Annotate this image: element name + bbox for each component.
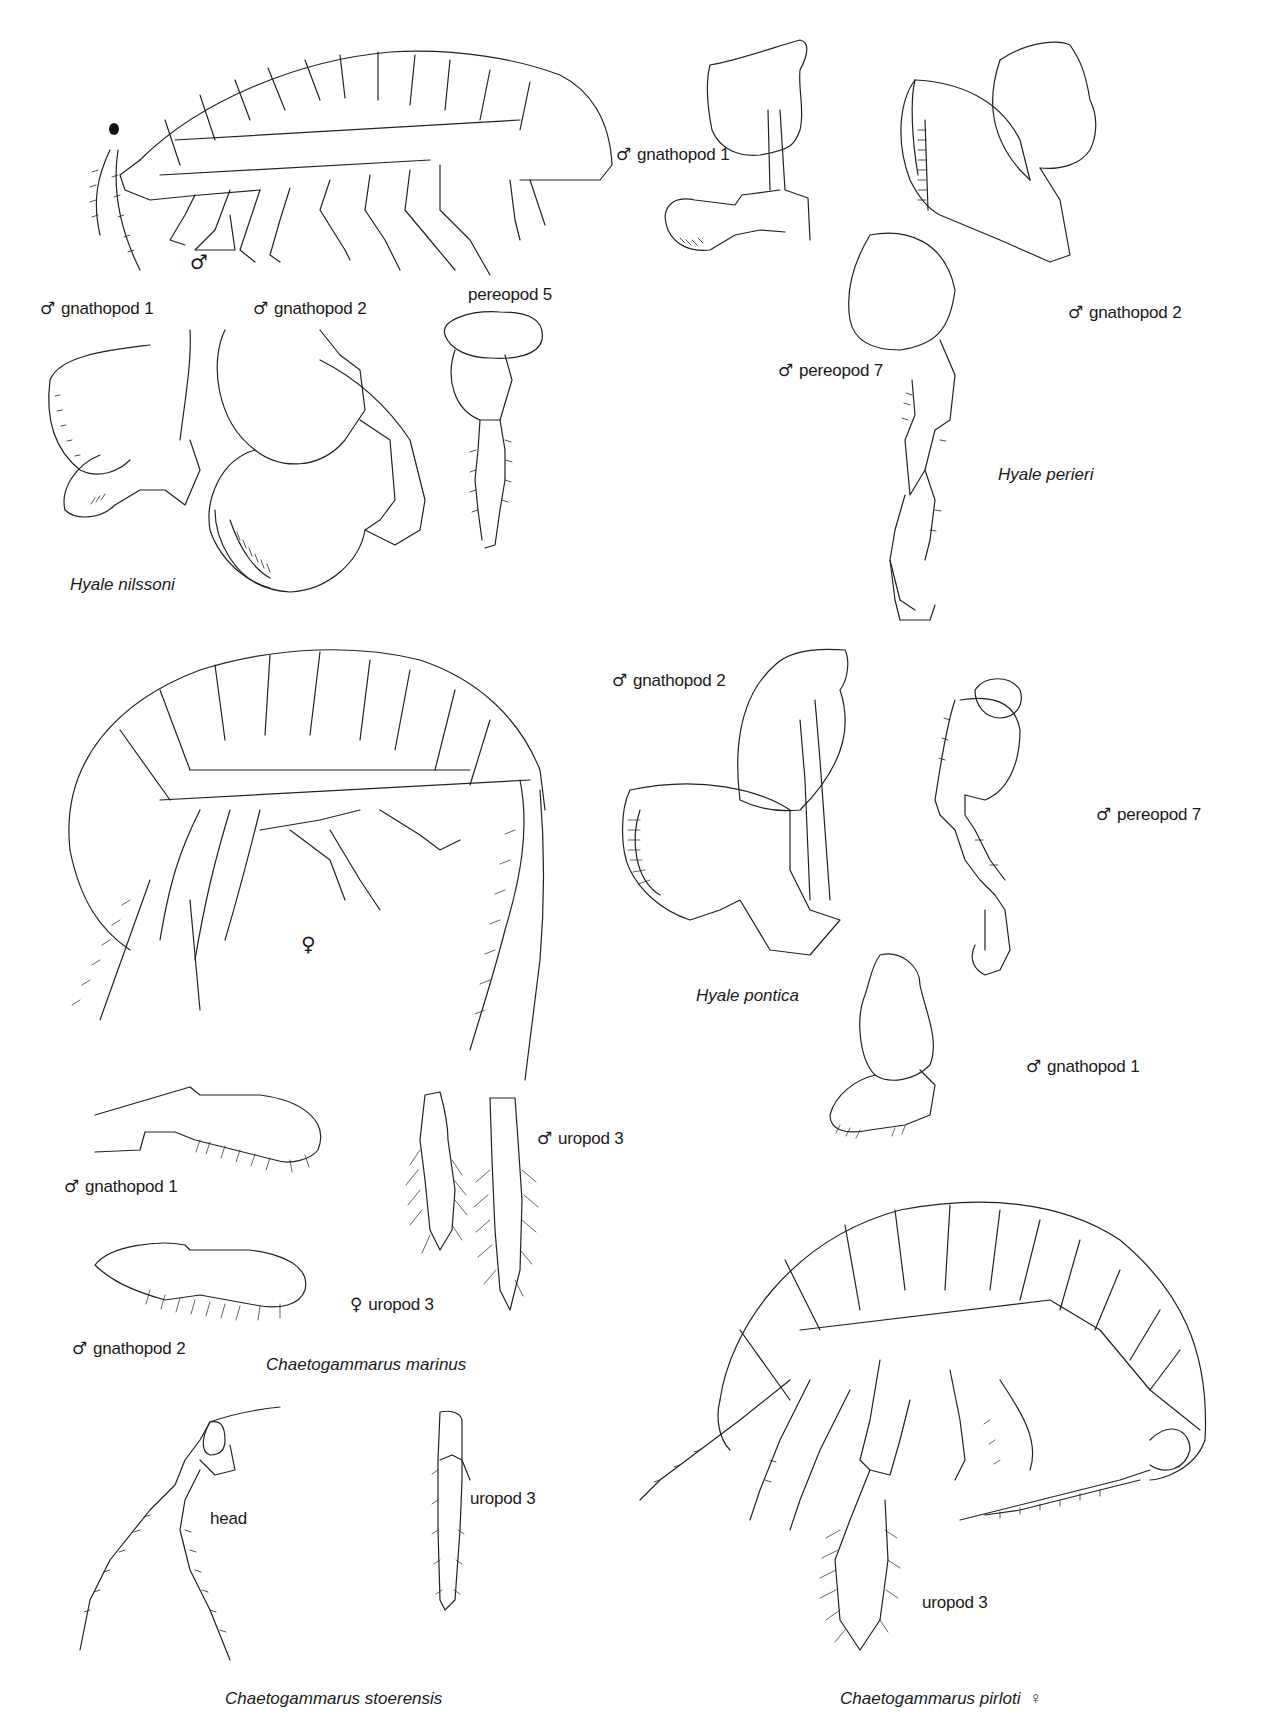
- female-symbol: ♀: [350, 1294, 362, 1314]
- species-name-chaetogammarus-marinus: Chaetogammarus marinus: [266, 1356, 466, 1373]
- label-chaetogammarus-pirloti-uropod-3: uropod 3: [922, 1594, 988, 1611]
- male-symbol: ♂: [1096, 804, 1111, 824]
- label-hyale-pontica-gnathopod-1: ♂gnathopod 1: [1026, 1058, 1139, 1075]
- male-symbol: ♂: [253, 298, 268, 318]
- hyale-perieri-pereopod-7-drawing: [849, 233, 955, 620]
- male-symbol: ♂: [1026, 1056, 1041, 1076]
- hyale-nilssoni-body-drawing: [90, 51, 612, 275]
- chaetogammarus-marinus-gnathopod-2-drawing: [95, 1243, 306, 1320]
- label-hyale-nilssoni-gnathopod-1: ♂gnathopod 1: [40, 300, 153, 317]
- chaetogammarus-marinus-body-drawing: [69, 650, 545, 1080]
- chaetogammarus-marinus-uropod-3-male-drawing: [474, 1098, 538, 1310]
- female-symbol: ♀: [301, 934, 316, 954]
- label-hyale-pontica-gnathopod-2: ♂gnathopod 2: [612, 672, 725, 689]
- male-symbol: ♂: [64, 1176, 79, 1196]
- chaetogammarus-stoerensis-uropod-3-drawing: [432, 1411, 470, 1610]
- male-symbol: ♂: [40, 298, 55, 318]
- illustration-plate: ♂ ♂gnathopod 1 ♂gnathopod 2 pereopod 5 H…: [0, 0, 1268, 1730]
- label-hyale-nilssoni-pereopod-5: pereopod 5: [468, 286, 552, 303]
- label-hyale-perieri-gnathopod-2: ♂gnathopod 2: [1068, 304, 1181, 321]
- species-name-chaetogammarus-pirloti: Chaetogammarus pirloti ♀: [840, 1690, 1042, 1707]
- label-hyale-perieri-gnathopod-1: ♂gnathopod 1: [616, 146, 729, 163]
- hyale-nilssoni-pereopod-5-drawing: [444, 312, 542, 548]
- species-name-chaetogammarus-stoerensis: Chaetogammarus stoerensis: [225, 1690, 442, 1707]
- chaetogammarus-marinus-gnathopod-1-drawing: [95, 1087, 321, 1172]
- chaetogammarus-stoerensis-head-drawing: [80, 1407, 280, 1660]
- male-symbol: ♂: [537, 1128, 552, 1148]
- hyale-pontica-gnathopod-2-drawing: [623, 649, 848, 955]
- label-chaetogammarus-marinus-male-uropod-3: ♂uropod 3: [537, 1130, 624, 1147]
- male-symbol: ♂: [190, 252, 208, 272]
- hyale-nilssoni-gnathopod-1-drawing: [49, 330, 200, 517]
- male-symbol: ♂: [778, 360, 793, 380]
- hyale-pontica-pereopod-7-drawing: [935, 679, 1021, 975]
- species-name-hyale-pontica: Hyale pontica: [696, 987, 799, 1004]
- chaetogammarus-pirloti-body-drawing: [640, 1202, 1206, 1650]
- hyale-pontica-gnathopod-1-drawing: [830, 954, 935, 1138]
- hyale-nilssoni-gnathopod-2-drawing: [209, 330, 425, 592]
- chaetogammarus-marinus-uropod-3-female-drawing: [406, 1092, 467, 1253]
- species-name-hyale-perieri: Hyale perieri: [998, 466, 1093, 483]
- label-chaetogammarus-marinus-gnathopod-1: ♂gnathopod 1: [64, 1178, 177, 1195]
- male-symbol: ♂: [1068, 302, 1083, 322]
- label-hyale-pontica-pereopod-7: ♂pereopod 7: [1096, 806, 1201, 823]
- label-hyale-nilssoni-gnathopod-2: ♂gnathopod 2: [253, 300, 366, 317]
- label-chaetogammarus-marinus-gnathopod-2: ♂gnathopod 2: [72, 1340, 185, 1357]
- species-name-hyale-nilssoni: Hyale nilssoni: [70, 576, 175, 593]
- hyale-perieri-gnathopod-2-drawing: [901, 42, 1096, 262]
- male-symbol: ♂: [72, 1338, 87, 1358]
- label-chaetogammarus-stoerensis-uropod-3: uropod 3: [470, 1490, 536, 1507]
- female-symbol: ♀: [1029, 1689, 1042, 1708]
- label-hyale-perieri-pereopod-7: ♂pereopod 7: [778, 362, 883, 379]
- label-chaetogammarus-stoerensis-head: head: [210, 1510, 247, 1527]
- male-symbol: ♂: [616, 144, 631, 164]
- label-chaetogammarus-marinus-female-uropod-3: ♀uropod 3: [350, 1296, 434, 1313]
- male-symbol: ♂: [612, 670, 627, 690]
